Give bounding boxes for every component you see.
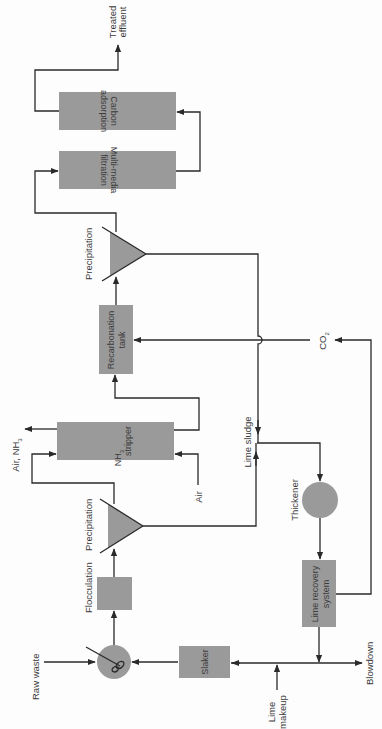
air-nh3-label: Air, NH3 — [10, 438, 23, 472]
precipitation-2-label: Precipitation — [83, 228, 94, 280]
recarbonation-label-2: tank — [117, 331, 127, 349]
precip-to-stripper — [32, 454, 114, 504]
multimedia-label-2: filtration — [99, 154, 109, 186]
precipitation-unit-1 — [100, 499, 143, 553]
sludge-to-thickener — [257, 443, 320, 481]
precipitation-unit-2 — [102, 227, 146, 281]
stripper-to-recarbonation — [115, 375, 199, 430]
carbon-label-1: Carbon — [109, 96, 119, 126]
air-inlet-stream — [175, 454, 198, 485]
flocculation-unit — [97, 577, 132, 610]
lime-recovery-label-2: system — [321, 580, 331, 609]
lime-sludge-label: Lime sludge — [242, 416, 253, 467]
treated-label-2: effluent — [117, 6, 128, 37]
co2-return-stream — [335, 340, 371, 594]
multimedia-to-carbon — [176, 112, 200, 171]
precipitation-2-triangle — [110, 232, 146, 276]
slaker-label: Slaker — [200, 649, 210, 675]
blowdown-label: Blowdown — [364, 642, 375, 685]
sludge-from-precip-2 — [146, 254, 262, 443]
thickener-label: Thickener — [289, 479, 300, 521]
co2-label: CO2 — [317, 332, 330, 350]
raw-waste-label: Raw waste — [30, 654, 41, 700]
flocculation-label: Flocculation — [83, 562, 94, 613]
lime-makeup-label-1: Lime — [266, 702, 277, 723]
lime-makeup-label-2: makeup — [277, 695, 288, 729]
lime-recovery-label-1: Lime recovery — [310, 565, 320, 622]
nh3-stripper-label-2: stripper — [123, 426, 133, 456]
recarbonation-tank-unit — [99, 305, 133, 374]
process-flow-diagram: Raw waste Flocculation Precipitation Pre… — [0, 0, 382, 729]
carbon-label-2: adsorption — [99, 90, 109, 132]
thickener-unit — [302, 482, 338, 518]
air-label: Air — [193, 491, 204, 503]
precipitation-1-label: Precipitation — [83, 499, 94, 551]
precipitation-1-triangle — [108, 504, 143, 548]
recarbonation-label-1: Recarbonation — [106, 311, 116, 370]
multimedia-label-1: Multi-media — [109, 147, 119, 194]
